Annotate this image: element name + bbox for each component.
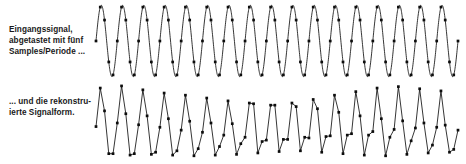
- sample-dot: [222, 40, 225, 43]
- sample-dot: [376, 87, 379, 90]
- sample-dot: [457, 40, 460, 43]
- sample-dot: [274, 19, 277, 22]
- sample-dot: [406, 153, 409, 156]
- sample-dot: [124, 112, 127, 115]
- reconstructed-signal-svg: [93, 82, 461, 164]
- sample-dot: [427, 152, 430, 155]
- sample-dot: [278, 61, 281, 64]
- sample-dot: [210, 19, 213, 22]
- sample-dot: [180, 40, 183, 43]
- sample-dot: [312, 6, 315, 9]
- sample-dot: [120, 85, 123, 88]
- sample-dot: [444, 124, 447, 127]
- sample-dot: [406, 61, 409, 64]
- sample-dot: [99, 6, 102, 9]
- sample-dot: [354, 6, 357, 9]
- sample-dot: [137, 40, 140, 43]
- sample-dot: [154, 74, 157, 77]
- sample-dot: [346, 134, 349, 137]
- sample-dot: [180, 129, 183, 132]
- sample-dot: [205, 97, 208, 100]
- sample-dot: [133, 74, 136, 77]
- sample-dot: [367, 74, 370, 77]
- sample-dot: [320, 151, 323, 154]
- sample-dot: [286, 40, 289, 43]
- reconstructed-signal-sample-dots: [95, 85, 460, 158]
- sample-dot: [359, 19, 362, 22]
- sample-dot: [354, 90, 357, 93]
- sample-dot: [316, 19, 319, 22]
- sample-dot: [167, 117, 170, 120]
- sample-dot: [188, 19, 191, 22]
- sample-dot: [269, 6, 272, 9]
- sample-dot: [124, 19, 127, 22]
- sample-dot: [256, 152, 259, 155]
- sample-dot: [295, 105, 298, 108]
- sample-dot: [201, 131, 204, 134]
- sample-dot: [256, 61, 259, 64]
- sample-dot: [142, 88, 145, 91]
- sample-dot: [227, 6, 230, 9]
- sample-dot: [303, 136, 306, 139]
- sample-dot: [393, 40, 396, 43]
- sample-dot: [239, 142, 242, 145]
- plot-reconstructed-signal: [93, 82, 461, 164]
- sample-dot: [146, 19, 149, 22]
- sample-dot: [188, 120, 191, 123]
- sample-dot: [342, 152, 345, 155]
- sample-dot: [129, 61, 132, 64]
- sample-dot: [286, 138, 289, 141]
- sample-dot: [95, 125, 98, 128]
- sample-dot: [308, 137, 311, 140]
- sample-dot: [235, 153, 238, 156]
- sample-dot: [184, 6, 187, 9]
- sample-dot: [350, 132, 353, 135]
- sample-dot: [99, 87, 102, 90]
- sample-dot: [333, 94, 336, 97]
- input-signal-curve: [96, 5, 458, 76]
- sample-dot: [103, 19, 106, 22]
- sample-dot: [367, 134, 370, 137]
- sample-dot: [440, 6, 443, 9]
- sample-dot: [452, 148, 455, 151]
- sample-dot: [210, 122, 213, 125]
- sample-dot: [205, 6, 208, 9]
- sample-dot: [201, 40, 204, 43]
- caption-reconstructed-signal: ... und die rekonstru- ierte Signalform.: [9, 96, 93, 118]
- sample-dot: [184, 94, 187, 97]
- sample-dot: [154, 151, 157, 154]
- sample-dot: [116, 122, 119, 125]
- sample-dot: [222, 134, 225, 137]
- sample-dot: [103, 110, 106, 113]
- sample-dot: [252, 19, 255, 22]
- sample-dot: [171, 154, 174, 157]
- sample-dot: [261, 140, 264, 143]
- sample-dot: [410, 139, 413, 142]
- sample-dot: [265, 40, 268, 43]
- sample-dot: [163, 92, 166, 95]
- sample-dot: [231, 19, 234, 22]
- sample-dot: [423, 122, 426, 125]
- sample-dot: [337, 19, 340, 22]
- sample-dot: [389, 74, 392, 77]
- sample-dot: [193, 61, 196, 64]
- sample-dot: [299, 149, 302, 152]
- sample-dot: [312, 98, 315, 101]
- sample-dot: [295, 19, 298, 22]
- sample-dot: [193, 154, 196, 157]
- sample-dot: [282, 138, 285, 141]
- sample-dot: [401, 19, 404, 22]
- sample-dot: [393, 128, 396, 131]
- sample-dot: [452, 74, 455, 77]
- sample-dot: [418, 87, 421, 90]
- sample-dot: [308, 40, 311, 43]
- sample-dot: [146, 115, 149, 118]
- sample-dot: [342, 61, 345, 64]
- sample-dot: [316, 107, 319, 110]
- plot-input-signal: [93, 0, 461, 82]
- sample-dot: [371, 40, 374, 43]
- sample-dot: [282, 74, 285, 77]
- sample-dot: [291, 102, 294, 105]
- sample-dot: [129, 154, 132, 157]
- sample-dot: [397, 85, 400, 88]
